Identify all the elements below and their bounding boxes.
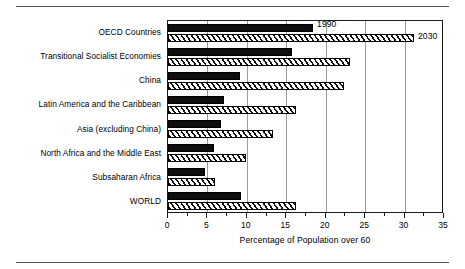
bar-2030 <box>168 106 296 114</box>
chart-figure: OECD CountriesTransitional Socialist Eco… <box>0 0 465 269</box>
bar-1990 <box>168 24 313 32</box>
bar-2030 <box>168 34 414 42</box>
bar-1990 <box>168 120 221 128</box>
bar-1990 <box>168 72 240 80</box>
axis-tick-major <box>246 213 247 218</box>
bottom-rule <box>16 262 449 263</box>
category-label: China <box>0 75 161 85</box>
bar-group <box>168 190 442 214</box>
axis-tick-major <box>443 213 444 218</box>
axis-tick-label: 15 <box>281 220 290 230</box>
axis-tick-label: 10 <box>241 220 250 230</box>
bar-2030 <box>168 58 350 66</box>
axis-tick-minor <box>344 213 345 216</box>
axis-tick-label: 5 <box>204 220 209 230</box>
category-label: North Africa and the Middle East <box>0 148 161 158</box>
axis-tick-label: 25 <box>359 220 368 230</box>
bar-group <box>168 93 442 117</box>
axis-tick-major <box>167 213 168 218</box>
value-axis: Percentage of Population over 60 0510152… <box>167 213 443 247</box>
category-label: Transitional Socialist Economies <box>0 51 161 61</box>
axis-tick-major <box>206 213 207 218</box>
bar-2030 <box>168 202 296 210</box>
bar-2030 <box>168 130 273 138</box>
axis-tick-major <box>325 213 326 218</box>
axis-tick-label: 35 <box>438 220 447 230</box>
axis-tick-minor <box>423 213 424 216</box>
bar-group <box>168 118 442 142</box>
bar-group <box>168 45 442 69</box>
bar-group <box>168 142 442 166</box>
bar-group <box>168 69 442 93</box>
bar-group <box>168 166 442 190</box>
bar-1990 <box>168 144 214 152</box>
series-label-2030: 2030 <box>418 32 437 41</box>
category-label: Latin America and the Caribbean <box>0 99 161 109</box>
axis-tick-major <box>404 213 405 218</box>
top-rule <box>16 6 449 7</box>
axis-tick-major <box>364 213 365 218</box>
category-axis-labels: OECD CountriesTransitional Socialist Eco… <box>0 20 161 213</box>
bar-2030 <box>168 178 215 186</box>
axis-tick-label: 0 <box>165 220 170 230</box>
bar-2030 <box>168 82 344 90</box>
axis-tick-minor <box>226 213 227 216</box>
series-label-1990: 1990 <box>317 20 336 29</box>
axis-tick-major <box>285 213 286 218</box>
bar-1990 <box>168 192 241 200</box>
category-label: Subsaharan Africa <box>0 172 161 182</box>
category-label: OECD Countries <box>0 27 161 37</box>
bar-rows <box>168 21 442 212</box>
axis-tick-minor <box>266 213 267 216</box>
bar-group <box>168 21 442 45</box>
bar-1990 <box>168 48 292 56</box>
category-label: Asia (excluding China) <box>0 124 161 134</box>
bar-1990 <box>168 96 224 104</box>
axis-tick-label: 30 <box>399 220 408 230</box>
axis-tick-minor <box>187 213 188 216</box>
axis-tick-label: 20 <box>320 220 329 230</box>
axis-tick-minor <box>384 213 385 216</box>
bar-1990 <box>168 168 205 176</box>
category-label: WORLD <box>0 196 161 206</box>
axis-tick-minor <box>305 213 306 216</box>
plot-area: 19902030 <box>167 20 443 213</box>
x-axis-title: Percentage of Population over 60 <box>167 235 443 246</box>
bar-2030 <box>168 154 246 162</box>
